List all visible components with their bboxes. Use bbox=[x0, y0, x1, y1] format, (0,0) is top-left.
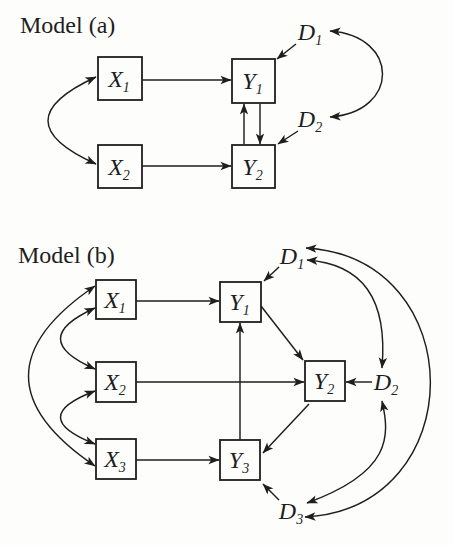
model-b-group: X1X2X3Y1Y2Y3D1D2D3 bbox=[29, 243, 431, 527]
disturbance-label-b-D1: D1 bbox=[279, 243, 304, 272]
disturbance-label-b-D2: D2 bbox=[373, 369, 398, 398]
edge-a-d1-d2 bbox=[330, 31, 383, 117]
path-diagram-figure: Model (a) Model (b) X1X2Y1Y2D1D2X1X2X3Y1… bbox=[0, 0, 453, 545]
disturbance-label-a-D2: D2 bbox=[297, 106, 322, 135]
disturbance-label-b-D3: D3 bbox=[278, 498, 303, 527]
edge-b-d3-y3 bbox=[263, 484, 279, 500]
edge-a-x1-x2 bbox=[48, 77, 96, 164]
edge-b-d1-d2 bbox=[307, 260, 383, 368]
disturbance-label-a-D1: D1 bbox=[297, 19, 322, 48]
edge-a-d2-y2 bbox=[278, 131, 298, 144]
model-a-group: X1X2Y1Y2D1D2 bbox=[48, 19, 383, 188]
edge-b-x1-x2 bbox=[61, 308, 96, 369]
edge-b-d2-d3 bbox=[307, 401, 386, 503]
edge-b-x2-x3 bbox=[61, 391, 96, 444]
edge-b-y1-y2 bbox=[261, 306, 303, 360]
edge-b-d1-y1 bbox=[264, 267, 279, 281]
edge-a-d1-y1 bbox=[277, 44, 296, 59]
diagram-canvas: X1X2Y1Y2D1D2X1X2X3Y1Y2Y3D1D2D3 bbox=[0, 0, 453, 545]
edge-b-y2-y3 bbox=[263, 404, 309, 453]
